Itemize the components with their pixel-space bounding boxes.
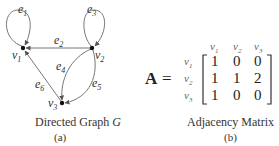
edge-label-e5: e5 xyxy=(92,76,101,92)
edge-label-e6: e6 xyxy=(35,77,44,93)
matrix-caption: Adjacency Matrix xyxy=(187,115,274,130)
matrix-sub-label: (b) xyxy=(224,131,237,143)
matrix-right-bracket xyxy=(267,55,271,104)
row-header-v1: v1 xyxy=(184,55,192,70)
node-v2 xyxy=(90,46,94,50)
matrix-equals: = xyxy=(162,69,172,89)
matrix-cell: 1 xyxy=(211,70,219,87)
node-v1 xyxy=(21,46,25,50)
matrix-cell: 1 xyxy=(211,87,219,104)
edge-e4 xyxy=(62,49,91,100)
matrix-cell: 0 xyxy=(254,53,262,70)
row-header-v2: v2 xyxy=(184,72,192,87)
edge-label-e1: e1 xyxy=(18,2,27,18)
matrix-cell: 0 xyxy=(233,53,241,70)
matrix-left-bracket xyxy=(203,55,207,104)
graph-sub-label: (a) xyxy=(54,131,66,143)
edge-label-e4: e4 xyxy=(56,59,65,75)
node-label-v3: v3 xyxy=(48,96,57,112)
edge-label-e3: e3 xyxy=(87,2,96,18)
node-label-v2: v2 xyxy=(95,48,104,64)
matrix-cell: 2 xyxy=(254,70,262,87)
node-v3 xyxy=(60,101,64,105)
matrix-cell: 0 xyxy=(254,87,262,104)
edge-e5 xyxy=(65,50,95,103)
matrix-cell: 1 xyxy=(233,70,241,87)
edge-label-e2: e2 xyxy=(54,33,63,49)
matrix-name: A xyxy=(145,69,157,89)
matrix-cell: 0 xyxy=(233,87,241,104)
node-label-v1: v1 xyxy=(12,48,21,64)
row-header-v3: v3 xyxy=(184,89,192,104)
graph-caption: Directed Graph G xyxy=(35,115,121,130)
matrix-cell: 1 xyxy=(211,53,219,70)
